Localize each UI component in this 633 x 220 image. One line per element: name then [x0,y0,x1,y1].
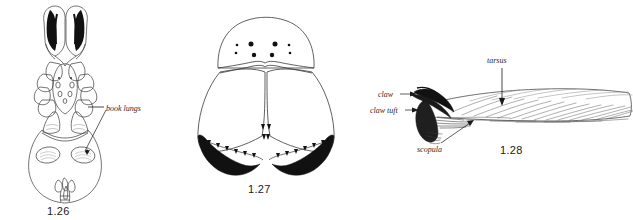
figure-1-27-drawing [198,17,334,175]
annotation-claw: claw [378,90,393,99]
tarsus-hairs [452,96,633,120]
eye-group [235,42,292,58]
coxa-lower-right [71,112,88,133]
figure-caption-1-26: 1.26 [47,205,70,217]
figure-1-26-drawing [29,6,102,203]
annotation-tarsus: tarsus [487,56,507,65]
annotation-scopula: scopula [417,145,442,154]
scopula-arrowhead [467,120,474,126]
cheliceral-teeth [207,124,325,158]
illustration-canvas [0,0,633,220]
book-lung-covers [35,145,96,164]
tarsus-outline [436,89,631,121]
spinnerets-group [55,178,75,202]
chelicera-left [198,69,265,152]
figure-caption-1-28: 1.28 [500,144,523,156]
annotation-book-lungs: book lungs [106,104,141,113]
chelicerae-group [44,6,88,59]
annotation-claw-tuft: claw tuft [370,106,398,115]
sternum [53,64,78,114]
carapace-group [34,56,97,133]
coxa-lower-left [43,112,60,133]
cephalothorax-outline [218,17,314,68]
figure-plate: book lungs claw claw tuft tarsus scopula… [0,0,633,220]
chelicera-right [267,69,334,152]
figure-caption-1-27: 1.27 [248,183,271,195]
figure-1-28-drawing [400,68,633,144]
